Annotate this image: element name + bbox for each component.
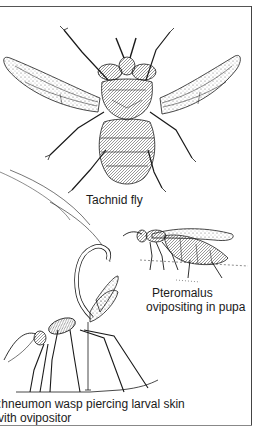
tachnid-fly-icon <box>4 26 241 193</box>
ichneumon-caption-line-2: vith ovipositor <box>0 411 71 425</box>
pteromalus-caption-line-1: Pteromalus <box>152 286 213 300</box>
pteromalus-caption-line-2: ovipositing in pupa <box>146 300 245 314</box>
pteromalus-wasp-icon <box>123 229 248 282</box>
insect-illustrations <box>0 0 263 428</box>
ichneumon-caption-line-1: :hneumon wasp piercing larval skin <box>0 397 185 411</box>
tachnid-fly-caption: Tachnid fly <box>86 193 143 207</box>
